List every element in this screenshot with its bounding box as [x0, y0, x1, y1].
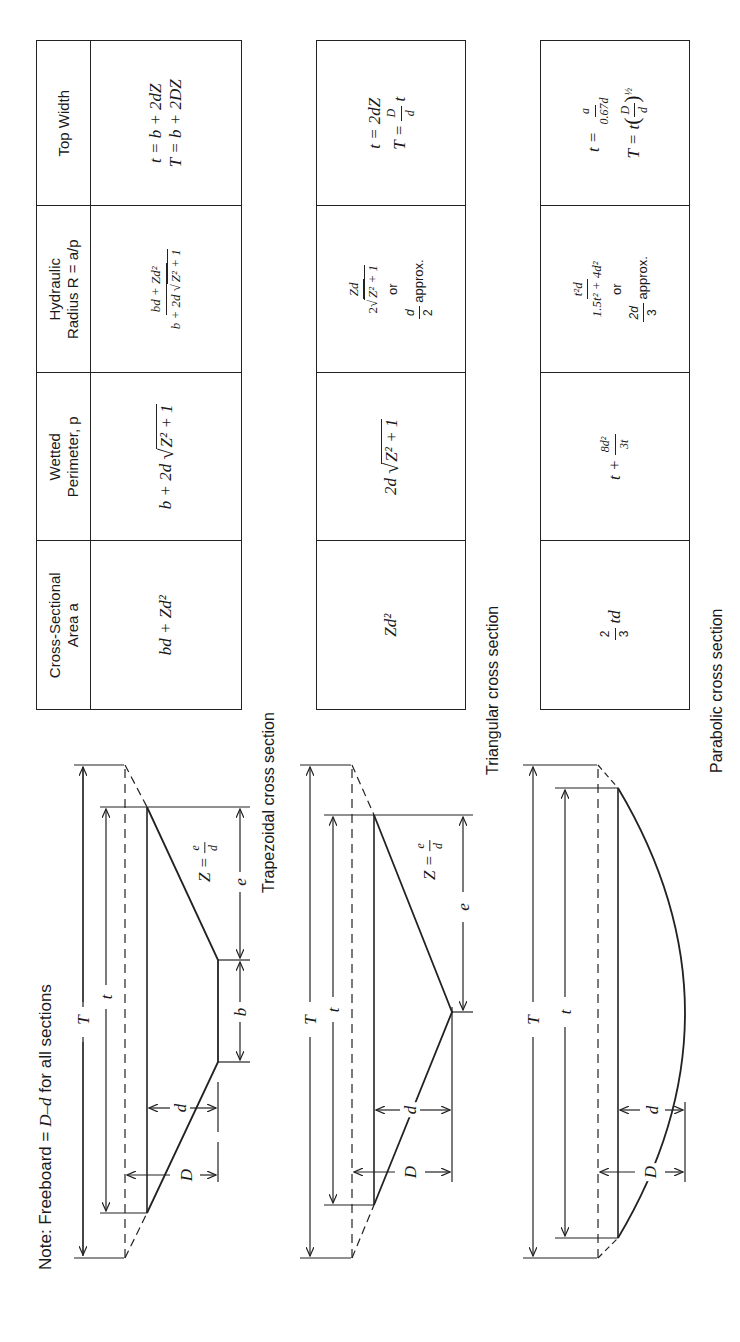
label-b-trapezoidal: b [232, 1005, 249, 1020]
hydraulic-radius-trapezoidal: bd + Zd² b + 2d √Z² + 1 [91, 207, 241, 374]
z-fraction: ed [414, 840, 445, 852]
hr-approx: 2d3 approx. [628, 256, 659, 322]
area-suffix: td [605, 610, 625, 623]
tw-den: d [402, 107, 417, 119]
parabolic-diagram [523, 765, 685, 1258]
wp-num: 8d² [599, 434, 615, 456]
tw-line1-num: a [579, 105, 595, 117]
top-width-parabolic: t = a0.67d T = t(Dd)½ [541, 41, 689, 207]
header-tw-line1: Top Width [55, 90, 73, 157]
tw-line1-pre: t = [584, 127, 603, 152]
tw-line1: t = b + 2dZ [146, 83, 166, 163]
z-num: e [414, 840, 430, 851]
label-t-parabolic: t [557, 1007, 574, 1018]
tw-line1-den: 0.67d [596, 94, 611, 127]
label-t-trapezoidal: t [98, 992, 115, 1003]
top-width-trapezoidal: t = b + 2dZ T = b + 2DZ [91, 41, 241, 207]
wp-fraction: 8d²3t [599, 434, 630, 456]
hr-den: 2√Z² + 1 [364, 262, 380, 317]
hr-den: b + 2d √Z² + 1 [167, 246, 183, 332]
header-hydraulic-radius: Hydraulic Radius R = a/p [37, 207, 91, 374]
hr-den-radicand: Z² + 1 [167, 249, 183, 284]
z-equals: Z = [197, 857, 214, 882]
hr-or: or [609, 283, 624, 295]
sqrt-icon: √ [380, 463, 403, 474]
hr-den-radicand: Z² + 1 [364, 265, 380, 300]
tw-line2-den: d [635, 104, 650, 116]
wp-radicand: Z² + 1 [381, 419, 402, 464]
table-row-triangular: Zd² 2d √Z² + 1 Zd 2√Z² + 1 or d2 approx.… [316, 40, 466, 710]
z-den: d [431, 840, 446, 852]
z-den: d [206, 842, 221, 854]
caption-triangular: Triangular cross section [484, 606, 502, 775]
hr-num: bd + Zd² [149, 263, 166, 315]
top-width-triangular: t = 2dZ T = Dd t [317, 41, 465, 207]
area-fraction: 23 [599, 628, 630, 641]
approx-den: 2 [420, 306, 435, 319]
caption-trapezoidal: Trapezoidal cross section [260, 712, 278, 893]
hr-den-pre: b + 2d [168, 295, 183, 330]
tw-num: D [385, 106, 401, 121]
tw-line2-pre: T = t [624, 125, 643, 159]
approx-num: 2d [628, 303, 644, 322]
area-num: 2 [599, 628, 615, 641]
label-T-parabolic: T [525, 1012, 542, 1027]
wetted-perimeter-parabolic: t + 8d²3t [541, 373, 689, 542]
sqrt-icon: √ [155, 448, 178, 459]
hr-approx: d2 approx. [404, 259, 435, 319]
table-header: Cross-Sectional Area a Wetted Perimeter,… [36, 40, 92, 710]
label-Z-trapezoidal: Z = ed [189, 839, 220, 885]
sqrt-icon: √ [365, 300, 380, 307]
table-row-trapezoidal: bd + Zd² b + 2d √Z² + 1 bd + Zd² b + 2d … [90, 40, 242, 710]
hr-fraction: t²d 1.5t² + 4d² [571, 258, 605, 320]
paren-close: ) [619, 95, 644, 102]
z-fraction: ed [189, 842, 220, 854]
hydraulic-radius-triangular: Zd 2√Z² + 1 or d2 approx. [317, 207, 465, 374]
label-T-triangular: T [302, 1012, 319, 1027]
wp-radicand: Z² + 1 [156, 404, 177, 449]
header-wp-line1: Wetted [46, 433, 64, 480]
z-num: e [189, 842, 205, 853]
hr-fraction: Zd 2√Z² + 1 [347, 262, 381, 317]
wp-den: 3t [616, 437, 631, 452]
hr-den-pre: 2 [365, 307, 380, 314]
tw-line2-pre: T = [390, 121, 409, 150]
wp-pre: 2d [381, 478, 401, 495]
wetted-perimeter-triangular: 2d √Z² + 1 [317, 373, 465, 542]
label-D-trapezoidal: D [178, 1166, 195, 1184]
label-e-triangular: e [455, 900, 472, 914]
header-area-line1: Cross-Sectional [46, 572, 64, 678]
trapezoidal-diagram [74, 765, 250, 1258]
label-d-parabolic: d [644, 1103, 661, 1118]
tw-fraction: Dd [385, 106, 416, 121]
sqrt-icon: √ [168, 284, 183, 291]
header-area: Cross-Sectional Area a [37, 542, 91, 710]
paren-open: ( [619, 117, 644, 124]
hr-approx-fraction: 2d3 [628, 303, 659, 322]
hr-num: Zd [347, 279, 364, 299]
hr-num: t²d [571, 279, 588, 299]
tw-line2-num: D [619, 103, 635, 118]
label-D-triangular: D [402, 1163, 419, 1181]
label-T-trapezoidal: T [75, 1012, 92, 1027]
header-hr-line1: Hydraulic [46, 258, 64, 321]
area-parabolic: 23 td [541, 542, 689, 710]
area-den: 3 [616, 628, 631, 641]
tw-line2: T = b + 2DZ [166, 79, 186, 167]
tw-line2: T = Dd t [385, 97, 416, 150]
header-top-width: Top Width [37, 41, 91, 207]
page: Note: Freeboard = D–d for all sections [0, 0, 740, 1342]
label-Z-triangular: Z = ed [414, 837, 445, 883]
tw-line1: t = 2dZ [365, 98, 385, 149]
label-e-trapezoidal: e [232, 875, 249, 889]
tw-line1-fraction: a0.67d [579, 94, 610, 127]
approx-num: d [404, 306, 420, 319]
hr-fraction: bd + Zd² b + 2d √Z² + 1 [149, 246, 183, 332]
tw-suffix: t [390, 97, 409, 102]
tw-line2: T = t(Dd)½ [619, 88, 651, 159]
label-t-triangular: t [325, 1005, 342, 1016]
area-triangular: Zd² [317, 542, 465, 710]
caption-parabolic: Parabolic cross section [708, 608, 726, 773]
wp-pre: b + 2d [156, 464, 176, 509]
header-wetted-perimeter: Wetted Perimeter, p [37, 373, 91, 542]
